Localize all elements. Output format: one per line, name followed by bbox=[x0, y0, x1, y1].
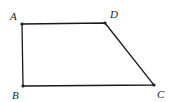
vertex-point-a bbox=[20, 22, 23, 25]
vertex-point-c bbox=[152, 83, 155, 86]
quadrilateral-abcd bbox=[22, 23, 154, 86]
vertex-label-d: D bbox=[109, 8, 118, 20]
vertex-label-a: A bbox=[9, 10, 17, 22]
diagram-svg: A D C B bbox=[0, 0, 170, 102]
vertex-label-c: C bbox=[157, 88, 165, 100]
vertex-point-b bbox=[21, 84, 24, 87]
vertex-point-d bbox=[103, 21, 106, 24]
quadrilateral-diagram: A D C B bbox=[0, 0, 170, 102]
vertex-label-b: B bbox=[12, 89, 19, 101]
